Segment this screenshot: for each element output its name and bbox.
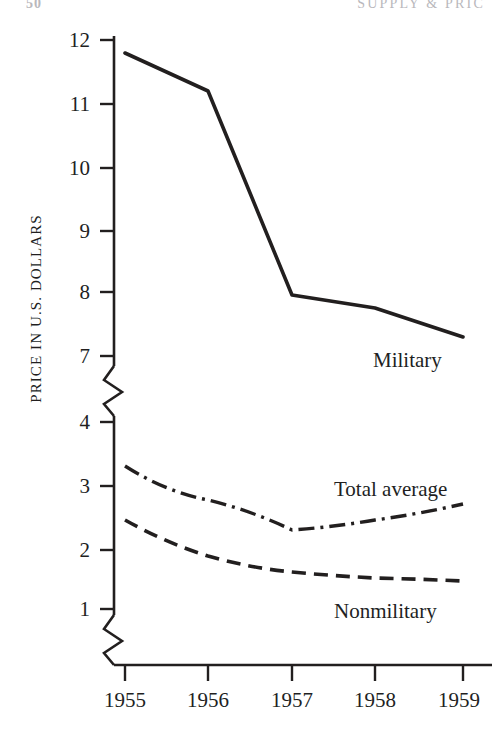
series-line-nonmilitary bbox=[125, 520, 463, 581]
y-tick-label-11: 11 bbox=[50, 94, 90, 115]
y-tick-label-3: 3 bbox=[50, 476, 90, 497]
figure-page: 50 SUPPLY & PRIC bbox=[0, 0, 499, 743]
y-tick-label-12: 12 bbox=[50, 30, 90, 51]
series-label-military: Military bbox=[373, 350, 442, 371]
y-tick-label-9: 9 bbox=[50, 221, 90, 242]
y-axis-title: PRICE IN U.S. DOLLARS bbox=[28, 189, 45, 429]
x-tick-label-1956: 1956 bbox=[168, 690, 248, 711]
line-chart: PRICE IN U.S. DOLLARS 12 11 10 9 8 7 4 3… bbox=[0, 0, 499, 743]
x-tick-marks bbox=[125, 665, 463, 681]
y-axis-break-upper bbox=[104, 366, 122, 416]
x-tick-label-1959: 1959 bbox=[419, 690, 499, 711]
y-tick-label-4: 4 bbox=[50, 412, 90, 433]
y-tick-marks bbox=[100, 40, 114, 609]
series-label-total-average: Total average bbox=[334, 479, 447, 500]
y-tick-label-10: 10 bbox=[50, 158, 90, 179]
y-tick-label-1: 1 bbox=[50, 599, 90, 620]
y-tick-label-7: 7 bbox=[50, 346, 90, 367]
y-axis-break-lower bbox=[104, 615, 122, 665]
x-tick-label-1955: 1955 bbox=[85, 690, 165, 711]
y-tick-label-2: 2 bbox=[50, 540, 90, 561]
x-tick-label-1957: 1957 bbox=[252, 690, 332, 711]
series-line-military bbox=[125, 53, 463, 337]
x-tick-label-1958: 1958 bbox=[335, 690, 415, 711]
series-label-nonmilitary: Nonmilitary bbox=[334, 601, 437, 622]
y-tick-label-8: 8 bbox=[50, 282, 90, 303]
